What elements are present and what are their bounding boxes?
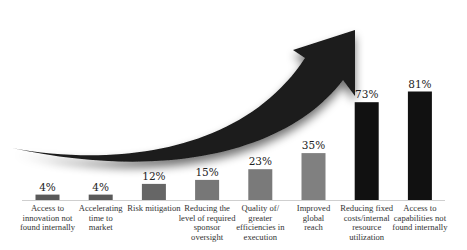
value-label-8: 81% [408, 78, 431, 90]
category-label-5: Quality of/greaterefficiencies inexecuti… [236, 203, 285, 242]
bar-4 [195, 180, 219, 200]
category-label-8: Access tocapabilities notfound internall… [392, 203, 448, 232]
category-label-line: found internally [20, 222, 76, 232]
bar-5 [248, 169, 272, 200]
value-label-7: 73% [355, 88, 378, 100]
category-label-line: level of required [179, 213, 236, 223]
value-label-6: 35% [302, 139, 325, 151]
category-label-line: costs/internal [344, 213, 390, 223]
bar-8 [408, 92, 432, 201]
category-label-line: Reducing fixed [340, 203, 393, 213]
category-label-line: Improved [297, 203, 331, 213]
category-label-3: Risk mitigation [127, 203, 181, 213]
category-labels-group: Access toinnovation notfound internallyA… [20, 203, 448, 242]
category-label-line: Access to [31, 203, 64, 213]
category-label-line: utilization [349, 232, 385, 242]
category-label-line: greater [248, 213, 272, 223]
category-label-line: Accelerating [79, 203, 124, 213]
category-label-line: oversight [191, 232, 224, 242]
bar-2 [89, 195, 113, 200]
category-label-line: Access to [403, 203, 436, 213]
category-label-1: Access toinnovation notfound internally [20, 203, 76, 232]
bar-3 [142, 184, 166, 200]
category-label-line: Reducing the [184, 203, 230, 213]
category-label-2: Acceleratingtime tomarket [79, 203, 124, 232]
category-label-line: execution [244, 232, 278, 242]
category-label-4: Reducing thelevel of requiredsponsorover… [179, 203, 236, 242]
category-label-line: efficiencies in [236, 222, 285, 232]
value-label-4: 15% [195, 166, 218, 178]
category-label-7: Reducing fixedcosts/internalresourceutil… [340, 203, 393, 242]
category-label-line: found internally [392, 222, 448, 232]
outsourcing-drivers-chart: Outsourcing drivers 4%4%12%15%23%35%73%8… [0, 0, 467, 250]
bar-6 [302, 153, 326, 200]
bar-1 [36, 195, 60, 200]
category-label-line: Quality of/ [242, 203, 280, 213]
category-label-line: resource [352, 222, 381, 232]
category-label-line: innovation not [23, 213, 74, 223]
category-label-line: reach [304, 222, 323, 232]
category-label-line: Risk mitigation [127, 203, 181, 213]
value-label-3: 12% [142, 170, 165, 182]
category-label-line: global [303, 213, 325, 223]
category-label-line: time to [89, 213, 113, 223]
category-label-6: Improvedglobalreach [297, 203, 331, 232]
category-label-line: market [89, 222, 113, 232]
value-label-1: 4% [39, 181, 56, 193]
category-label-line: capabilities not [394, 213, 447, 223]
category-label-line: sponsor [194, 222, 221, 232]
value-label-5: 23% [249, 155, 272, 167]
bar-7 [355, 102, 379, 200]
value-label-2: 4% [92, 181, 109, 193]
